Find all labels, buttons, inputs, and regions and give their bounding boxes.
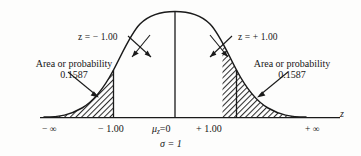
axis-tick-positive-infinity: + ∞ xyxy=(305,124,320,135)
annotation-z-minus-1: z = − 1.00 xyxy=(78,32,118,43)
z-axis-label: z xyxy=(340,108,344,119)
annotation-area-right-text: Area or probability xyxy=(254,58,331,69)
axis-tick-mean: μz=0 xyxy=(152,123,170,136)
sigma-label: σ = 1 xyxy=(160,138,182,149)
normal-distribution-figure: z = − 1.00 z = + 1.00 Area or probabilit… xyxy=(0,0,361,156)
annotation-area-right-value: 0.1587 xyxy=(236,69,348,80)
leader-arrow-z-minus-1 xyxy=(128,35,151,57)
annotation-area-left-value: 0.1587 xyxy=(18,69,130,80)
mean-value: =0 xyxy=(160,123,171,134)
annotation-area-right: Area or probability 0.1587 xyxy=(236,58,348,80)
axis-tick-minus-one: − 1.00 xyxy=(98,123,124,134)
annotation-area-left: Area or probability 0.1587 xyxy=(18,58,130,80)
axis-tick-plus-one: + 1.00 xyxy=(196,123,222,134)
annotation-z-plus-1: z = + 1.00 xyxy=(238,32,278,43)
axis-tick-negative-infinity: − ∞ xyxy=(42,124,57,135)
annotation-area-left-text: Area or probability xyxy=(36,58,113,69)
